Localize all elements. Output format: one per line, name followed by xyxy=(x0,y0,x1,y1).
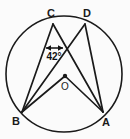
point-label-A: A xyxy=(102,116,110,128)
point-label-O: O xyxy=(61,81,69,92)
chord-D-to-A xyxy=(85,24,103,112)
point-label-D: D xyxy=(83,7,91,19)
main-circle xyxy=(6,16,122,132)
chord-D-to-B xyxy=(22,24,85,112)
point-label-B: B xyxy=(12,115,20,127)
center-point-dot xyxy=(63,74,67,78)
geometry-figure: 42° C D B A O xyxy=(0,0,130,139)
point-label-C: C xyxy=(47,7,55,19)
angle-value-label: 42° xyxy=(46,51,61,62)
chord-C-to-A xyxy=(53,24,103,112)
geometry-canvas: 42° C D B A O xyxy=(0,0,130,139)
angle-arrow-marker xyxy=(46,45,63,51)
